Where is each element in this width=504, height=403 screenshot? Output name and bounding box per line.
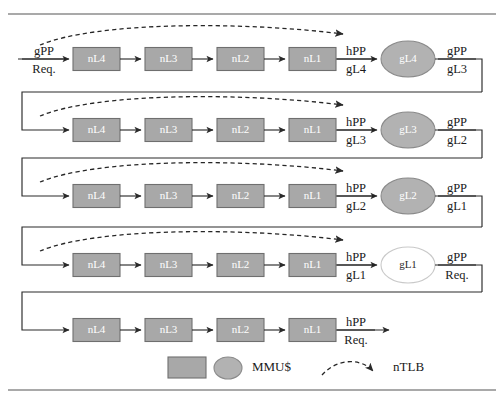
mid-label-top: hPP — [346, 315, 366, 329]
mmu-cache-block-label: nL3 — [160, 323, 178, 335]
ntlb-bypass-arrow — [40, 26, 343, 45]
output-label-bottom: gL2 — [447, 133, 467, 147]
legend-mmu-box-swatch — [168, 357, 206, 378]
mmu-cache-block-label: nL3 — [160, 258, 178, 270]
ntlb-bypass-arrow — [40, 97, 343, 116]
mmu-cache-block-label: nL2 — [232, 123, 250, 135]
legend-ntlb-arrow-swatch — [322, 362, 373, 375]
mmu-cache-block-label: nL1 — [304, 123, 322, 135]
output-label-top: gPP — [447, 115, 467, 129]
mid-label-top: hPP — [346, 181, 366, 195]
mmu-cache-block-label: nL2 — [232, 258, 250, 270]
mmu-cache-block-label: nL3 — [160, 52, 178, 64]
mid-label-bottom: gL4 — [346, 62, 367, 76]
legend-ntlb-label: nTLB — [393, 359, 424, 374]
mmu-cache-block-label: nL4 — [88, 189, 106, 201]
mmu-cache-circle-label: gL4 — [399, 52, 417, 64]
pipeline-row: nL4nL3nL2nL1hPPReq. — [22, 292, 482, 347]
legend-mmu-circle-swatch — [214, 357, 242, 379]
mmu-cache-block-label: nL4 — [88, 258, 106, 270]
mmu-cache-block-label: nL4 — [88, 123, 106, 135]
legend-layer: MMU$nTLB — [168, 357, 424, 379]
mmu-cache-block-label: nL3 — [160, 189, 178, 201]
mid-label-bottom: gL1 — [346, 268, 366, 282]
input-label-bottom: Req. — [32, 62, 55, 76]
output-label-bottom: gL3 — [447, 62, 467, 76]
mid-label-top: hPP — [346, 115, 366, 129]
legend-mmu-label: MMU$ — [252, 359, 292, 374]
mid-label-bottom: Req. — [344, 333, 367, 347]
pipeline-row: nL4nL3nL2nL1hPPgL3gL3gPPgL2 — [22, 92, 482, 158]
diagram-root: gPPReq.nL4nL3nL2nL1hPPgL4gL4gPPgL3nL4nL3… — [0, 0, 504, 403]
mmu-cache-circle-label: gL3 — [399, 123, 417, 135]
mmu-cache-block-label: nL4 — [88, 323, 106, 335]
mid-label-bottom: gL2 — [346, 199, 366, 213]
mmu-cache-circle-label: gL1 — [399, 258, 417, 270]
mmu-cache-block-label: nL1 — [304, 258, 322, 270]
mid-label-bottom: gL3 — [346, 133, 366, 147]
output-label-top: gPP — [447, 181, 467, 195]
pipeline-row: nL4nL3nL2nL1hPPgL2gL2gPPgL1 — [22, 158, 482, 227]
mid-label-top: hPP — [346, 44, 366, 58]
mmu-cache-block-label: nL4 — [88, 52, 106, 64]
output-label-bottom: gL1 — [447, 199, 467, 213]
pipeline-row: gPPReq.nL4nL3nL2nL1hPPgL4gL4gPPgL3 — [18, 26, 482, 92]
mmu-cache-block-label: nL1 — [304, 189, 322, 201]
mmu-cache-circle-label: gL2 — [399, 189, 417, 201]
mmu-cache-block-label: nL3 — [160, 123, 178, 135]
pipeline-diagram: gPPReq.nL4nL3nL2nL1hPPgL4gL4gPPgL3nL4nL3… — [0, 0, 504, 403]
output-label-top: gPP — [447, 44, 467, 58]
output-label-top: gPP — [447, 250, 467, 264]
mmu-cache-block-label: nL1 — [304, 52, 322, 64]
ntlb-bypass-arrow — [40, 163, 343, 182]
mmu-cache-block-label: nL2 — [232, 189, 250, 201]
pipeline-row: nL4nL3nL2nL1hPPgL1gL1gPPReq. — [22, 227, 482, 292]
mmu-cache-block-label: nL2 — [232, 323, 250, 335]
output-label-bottom: Req. — [445, 268, 468, 282]
ntlb-bypass-arrow — [40, 232, 343, 251]
mid-label-top: hPP — [346, 250, 366, 264]
input-label-top: gPP — [34, 44, 54, 58]
mmu-cache-block-label: nL1 — [304, 323, 322, 335]
mmu-cache-block-label: nL2 — [232, 52, 250, 64]
rows-layer: gPPReq.nL4nL3nL2nL1hPPgL4gL4gPPgL3nL4nL3… — [18, 26, 482, 347]
